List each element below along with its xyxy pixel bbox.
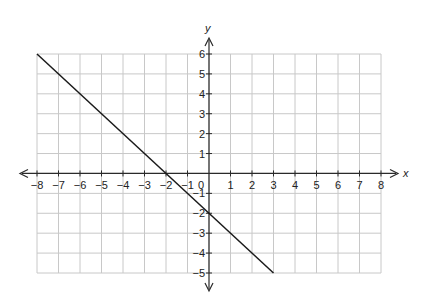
x-tick-label: −8	[31, 179, 44, 191]
y-tick-label: 3	[199, 108, 205, 120]
x-tick-label: −2	[160, 179, 173, 191]
y-tick-label: −5	[192, 267, 205, 279]
x-tick-label: −5	[95, 179, 108, 191]
x-tick-label: 6	[335, 179, 341, 191]
data-line	[37, 54, 274, 273]
x-tick-label: 4	[292, 179, 298, 191]
x-tick-label: 2	[249, 179, 255, 191]
x-axis-label: x	[402, 167, 409, 179]
y-tick-label: 4	[199, 88, 205, 100]
x-tick-label: −3	[138, 179, 151, 191]
y-tick-label: 6	[199, 48, 205, 60]
axis-ticks: −8−7−6−5−4−3−2−1012345678−5−4−3−2−112345…	[31, 48, 384, 279]
x-tick-label: 3	[270, 179, 276, 191]
data-series	[37, 54, 274, 273]
x-tick-label: −4	[117, 179, 130, 191]
x-tick-label: 5	[313, 179, 319, 191]
y-tick-label: −4	[192, 247, 205, 259]
y-tick-label: 1	[199, 148, 205, 160]
y-tick-label: −1	[192, 187, 205, 199]
y-tick-label: −2	[192, 207, 205, 219]
y-tick-label: 5	[199, 68, 205, 80]
y-tick-label: 2	[199, 128, 205, 140]
x-tick-label: −6	[74, 179, 87, 191]
x-tick-label: 8	[378, 179, 384, 191]
y-axis-label: y	[204, 22, 212, 34]
coordinate-plane: −8−7−6−5−4−3−2−1012345678−5−4−3−2−112345…	[0, 0, 424, 307]
y-tick-label: −3	[192, 227, 205, 239]
x-tick-label: 1	[227, 179, 233, 191]
x-tick-label: −7	[52, 179, 65, 191]
x-tick-label: 7	[356, 179, 362, 191]
